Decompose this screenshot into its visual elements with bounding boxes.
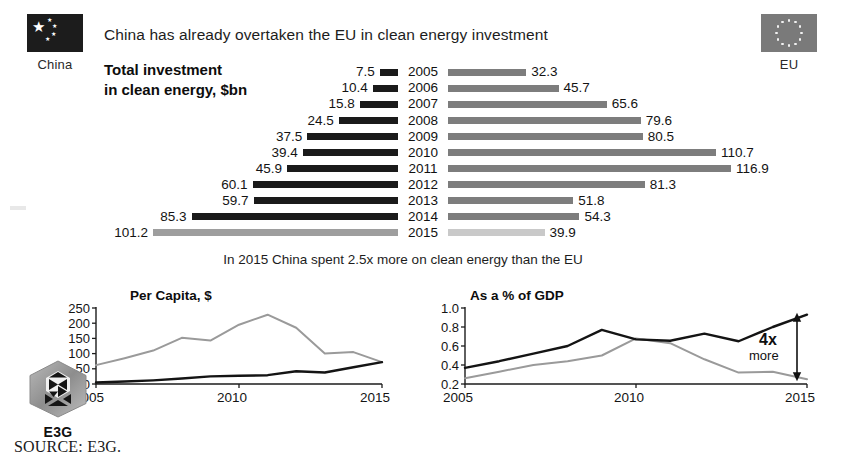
annotation-label-4x: 4x	[759, 331, 777, 349]
tornado-row-eu: 80.5	[448, 128, 842, 144]
tornado-value-china: 59.7	[222, 194, 248, 208]
tornado-row-eu: 110.7	[448, 144, 842, 160]
tornado-value-eu: 39.9	[550, 226, 576, 240]
tornado-value-china: 60.1	[221, 178, 247, 192]
tornado-bar-china	[287, 165, 398, 172]
annotation-label-more: more	[749, 348, 779, 363]
eu-flag-star	[788, 19, 791, 22]
tornado-bar-eu	[448, 117, 641, 124]
x-tick-label: 2010	[217, 390, 247, 405]
tornado-value-china: 10.4	[342, 81, 368, 95]
y-tick-label: 250	[68, 302, 90, 316]
sub-caption: In 2015 China spent 2.5x more on clean e…	[0, 252, 842, 267]
panel-title-per-capita: Per Capita, $	[130, 288, 212, 303]
x-tick-label: 2010	[614, 390, 644, 405]
tornado-value-china: 85.3	[160, 210, 186, 224]
x-tick-label: 2005	[443, 390, 473, 405]
eu-flag-star	[794, 43, 797, 46]
tornado-value-china: 24.5	[307, 114, 333, 128]
line-series-eu	[96, 315, 382, 365]
x-tick-label: 2015	[785, 390, 815, 405]
tornado-row: 7.5200532.3	[0, 64, 842, 80]
tornado-value-china: 101.2	[114, 226, 148, 240]
tornado-row-china: 59.7	[0, 193, 398, 209]
tornado-row-china: 24.5	[0, 112, 398, 128]
tornado-value-eu: 45.7	[564, 81, 590, 95]
tornado-row-china: 85.3	[0, 209, 398, 225]
tornado-bar-eu	[448, 85, 559, 92]
tornado-year-label: 2010	[398, 146, 448, 160]
eu-flag-star	[781, 43, 784, 46]
tornado-row-china: 39.4	[0, 144, 398, 160]
tornado-bar-china	[192, 213, 398, 220]
tornado-bar-eu	[448, 69, 526, 76]
tornado-bar-china	[254, 197, 398, 204]
tornado-value-eu: 110.7	[721, 146, 754, 160]
eu-flag-star	[777, 38, 780, 41]
y-tick-label: 0.4	[441, 358, 459, 373]
tornado-year-label: 2007	[398, 97, 448, 111]
tornado-year-label: 2013	[398, 194, 448, 208]
tornado-bar-eu	[448, 181, 645, 188]
tornado-row-eu: 54.3	[448, 209, 842, 225]
tornado-row: 60.1201281.3	[0, 177, 842, 193]
tornado-bar-eu	[448, 213, 579, 220]
tornado-row-china: 15.8	[0, 96, 398, 112]
tornado-row-eu: 51.8	[448, 193, 842, 209]
line-series-china	[96, 362, 382, 382]
eu-flag-icon	[761, 14, 817, 52]
panel-share-of-gdp: As a % of GDP 0.20.40.60.81.020052010201…	[415, 288, 815, 408]
tornado-row-eu: 79.6	[448, 112, 842, 128]
y-tick-label: 0.8	[441, 320, 459, 335]
tornado-value-eu: 116.9	[736, 162, 769, 176]
tornado-bar-china	[373, 85, 398, 92]
tornado-bar-china	[380, 69, 398, 76]
tornado-bar-eu	[448, 149, 716, 156]
tornado-value-china: 15.8	[328, 97, 354, 111]
y-tick-label: 150	[68, 331, 90, 346]
china-flag-star-small-3: ★	[51, 31, 56, 37]
tornado-row-china: 45.9	[0, 161, 398, 177]
tornado-year-label: 2008	[398, 114, 448, 128]
tornado-value-china: 7.5	[356, 65, 375, 79]
tornado-year-label: 2009	[398, 130, 448, 144]
china-flag-star-large: ★	[32, 19, 45, 34]
tornado-bar-china	[339, 117, 398, 124]
tornado-bar-china	[360, 101, 398, 108]
tornado-row: 39.42010110.7	[0, 144, 842, 160]
tornado-row-china: 10.4	[0, 80, 398, 96]
tornado-row: 10.4200645.7	[0, 80, 842, 96]
eu-flag-star	[799, 25, 802, 28]
tornado-row-china: 60.1	[0, 177, 398, 193]
tornado-bar-eu	[448, 229, 545, 236]
y-tick-label: 100	[68, 346, 90, 361]
tornado-year-label: 2014	[398, 210, 448, 224]
tornado-row: 15.8200765.6	[0, 96, 842, 112]
tornado-row: 37.5200980.5	[0, 128, 842, 144]
tornado-row-eu: 39.9	[448, 225, 842, 241]
sub-caption-text: In 2015 China spent 2.5x more on clean e…	[223, 252, 582, 267]
tornado-year-label: 2005	[398, 65, 448, 79]
annotation-arrow-4x	[793, 313, 801, 382]
china-flag-star-small-4: ★	[45, 36, 50, 42]
tornado-row: 85.3201454.3	[0, 209, 842, 225]
source-line: SOURCE: E3G.	[14, 438, 121, 456]
tornado-row-china: 101.2	[0, 225, 398, 241]
tornado-value-eu: 80.5	[648, 130, 674, 144]
panel-title-share-of-gdp: As a % of GDP	[470, 288, 564, 303]
y-tick-label: 200	[68, 316, 90, 331]
tornado-value-china: 39.4	[271, 146, 297, 160]
chart-axes	[96, 307, 382, 384]
tornado-row-eu: 45.7	[448, 80, 842, 96]
eu-flag-star	[800, 32, 803, 35]
tornado-bar-eu	[448, 165, 731, 172]
tornado-row: 59.7201351.8	[0, 193, 842, 209]
plot-share-of-gdp: 0.20.40.60.81.02005201020154xmore	[415, 302, 815, 404]
tornado-value-eu: 79.6	[646, 114, 672, 128]
tornado-row-eu: 116.9	[448, 161, 842, 177]
tornado-row-eu: 65.6	[448, 96, 842, 112]
y-tick-label: 1.0	[441, 302, 459, 316]
tornado-bar-china	[253, 181, 398, 188]
tornado-row: 101.2201539.9	[0, 225, 842, 241]
tornado-bar-eu	[448, 101, 607, 108]
